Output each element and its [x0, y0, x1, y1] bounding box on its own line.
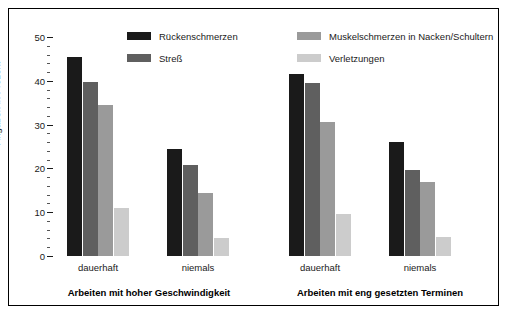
chart-frame: Rückenschmerzen Streß Muskelschmerzen in…: [8, 8, 499, 306]
y-axis-tick-label: 10: [34, 207, 45, 218]
bar: [214, 238, 229, 256]
bar: [320, 122, 335, 256]
bar: [114, 208, 129, 256]
panel-right-plot: [271, 37, 489, 256]
bar: [289, 74, 304, 256]
category-label-niemals: niemals: [182, 262, 215, 273]
bar-group-dauerhaft: [67, 37, 131, 256]
bar: [67, 57, 82, 256]
category-label-dauerhaft: dauerhaft: [78, 262, 118, 273]
bar: [305, 83, 320, 256]
y-axis-tick-label: 30: [34, 119, 45, 130]
bar: [405, 170, 420, 256]
bar: [420, 182, 435, 256]
y-axis-tick-label: 50: [34, 32, 45, 43]
chart-figure: Rückenschmerzen Streß Muskelschmerzen in…: [0, 0, 509, 316]
bar: [98, 105, 113, 256]
category-label-niemals: niemals: [404, 262, 437, 273]
bar: [198, 193, 213, 257]
category-label-dauerhaft: dauerhaft: [300, 262, 340, 273]
bar: [183, 165, 198, 256]
bar-group-niemals: [389, 37, 453, 256]
bar: [167, 149, 182, 256]
bar: [336, 214, 351, 256]
y-axis-tick-label: 20: [34, 163, 45, 174]
y-axis-tick-label: 0: [40, 251, 45, 262]
y-axis-title: Angaben in Prozent: [0, 62, 2, 145]
panel-right: Arbeiten mit eng gesetzten Terminen daue…: [271, 37, 489, 299]
bar-group-niemals: [167, 37, 231, 256]
panel-right-title: Arbeiten mit eng gesetzten Terminen: [297, 287, 463, 298]
bar: [436, 237, 451, 256]
panel-left-plot: [49, 37, 249, 256]
panel-left: Arbeiten mit hoher Geschwindigkeit dauer…: [49, 37, 249, 299]
bar-group-dauerhaft: [289, 37, 353, 256]
panel-left-title: Arbeiten mit hoher Geschwindigkeit: [68, 287, 231, 298]
bar: [389, 142, 404, 256]
bar: [83, 82, 98, 256]
y-axis-tick-label: 40: [34, 75, 45, 86]
